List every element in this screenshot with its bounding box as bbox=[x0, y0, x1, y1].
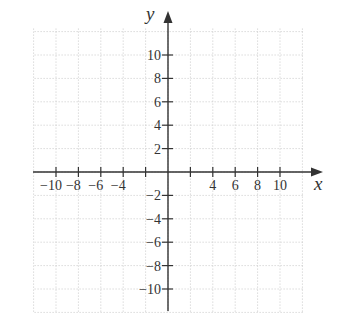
y-axis-arrow-icon bbox=[164, 11, 173, 23]
y-tick-label: −2 bbox=[146, 188, 161, 203]
y-tick-label: −6 bbox=[146, 235, 161, 250]
y-tick-label: 4 bbox=[154, 118, 161, 133]
x-tick-label: 4 bbox=[209, 178, 216, 193]
x-tick-label: −4 bbox=[111, 178, 126, 193]
x-axis-label: x bbox=[313, 173, 323, 194]
x-tick-label: 8 bbox=[254, 178, 261, 193]
x-ticks: −10−8−6−446810 bbox=[40, 167, 287, 193]
x-tick-label: 6 bbox=[232, 178, 239, 193]
y-tick-label: −8 bbox=[146, 259, 161, 274]
x-tick-label: 10 bbox=[273, 178, 287, 193]
x-tick-label: −8 bbox=[66, 178, 81, 193]
x-tick-label: −10 bbox=[40, 178, 62, 193]
y-axis-label: y bbox=[144, 3, 155, 24]
coordinate-plane: −10−8−6−446810 108642−2−4−6−8−10 x y bbox=[0, 0, 337, 329]
y-tick-label: −4 bbox=[146, 212, 161, 227]
y-tick-label: 10 bbox=[147, 48, 161, 63]
x-tick-label: −6 bbox=[88, 178, 103, 193]
y-tick-label: 2 bbox=[154, 142, 161, 157]
y-tick-label: 6 bbox=[154, 95, 161, 110]
y-tick-label: −10 bbox=[139, 282, 161, 297]
y-tick-label: 8 bbox=[154, 71, 161, 86]
